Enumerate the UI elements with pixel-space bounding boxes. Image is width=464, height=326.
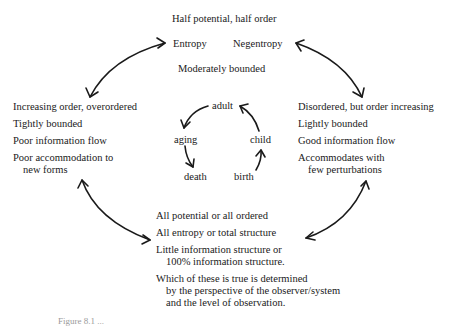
arrow-left-to-bottom-icon: [78, 180, 150, 244]
arrow-right-to-bottom-icon: [306, 181, 369, 240]
arrow-child-to-adult-icon: [240, 104, 259, 131]
arrow-aging-to-death-icon: [185, 146, 194, 167]
arrow-top-to-right-icon: [296, 40, 364, 97]
arrow-adult-to-aging-icon: [181, 106, 208, 128]
arrow-birth-to-child-icon: [256, 150, 265, 170]
cycle-arrows: [0, 0, 464, 326]
arrow-left-to-top-icon: [86, 38, 165, 97]
